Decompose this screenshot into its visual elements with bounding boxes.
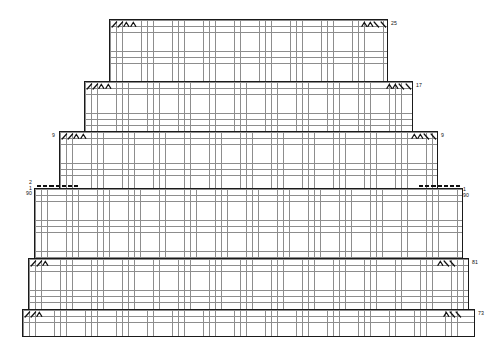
chart-tier-2 — [84, 81, 413, 131]
bindoff-dash-icon — [444, 185, 448, 188]
chart-tier-3 — [59, 131, 438, 188]
bindoff-dash-icon — [425, 185, 429, 188]
row-label-stack-left: 2 1 90 — [21, 180, 32, 197]
row-label-90-left: 90 — [26, 191, 32, 197]
bindoff-dash-icon — [43, 185, 47, 188]
row-label-17: 17 — [416, 83, 422, 89]
bindoff-dashes-right — [419, 185, 462, 188]
chart-tier-5 — [28, 258, 469, 309]
bindoff-dash-icon — [450, 185, 454, 188]
bindoff-dash-icon — [68, 185, 72, 188]
row-label-stack-right: 1 90 — [463, 187, 469, 198]
row-label-9-left: 9 — [52, 133, 55, 139]
bindoff-dash-icon — [419, 185, 423, 188]
chart-tier-6-bottom — [22, 309, 475, 337]
bindoff-dash-icon — [56, 185, 60, 188]
row-label-73: 73 — [478, 311, 484, 317]
chart-tier-1-top — [109, 19, 388, 81]
bindoff-dash-icon — [37, 185, 41, 188]
row-label-9-right: 9 — [441, 133, 444, 139]
bindoff-dash-icon — [62, 185, 66, 188]
knitting-chart: 25 17 9 9 2 1 90 1 90 81 73 — [0, 0, 501, 344]
row-label-81: 81 — [472, 260, 478, 266]
row-label-25: 25 — [391, 21, 397, 27]
bindoff-dash-icon — [456, 185, 460, 188]
bindoff-dash-icon — [49, 185, 53, 188]
bindoff-dashes-left — [37, 185, 80, 188]
bindoff-dash-icon — [431, 185, 435, 188]
bindoff-dash-icon — [74, 185, 78, 188]
chart-tier-4-body — [34, 188, 463, 258]
bindoff-dash-icon — [438, 185, 442, 188]
row-label-90-right: 90 — [463, 193, 469, 199]
